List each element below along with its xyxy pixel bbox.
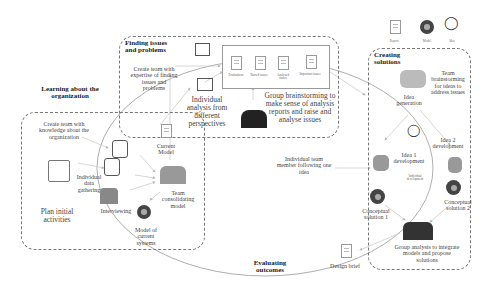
learning-model-current: Model of current systems — [130, 227, 162, 246]
legend-model: Model — [417, 40, 437, 43]
lightbulb-icon: ◯ — [444, 16, 459, 30]
planning-meeting-icon — [48, 160, 70, 182]
important-issues-doc-icon — [306, 55, 317, 69]
reading-person-icon-2 — [104, 158, 120, 176]
idea2-team-icon — [448, 157, 462, 173]
creating-concept2: Conceptual solution 2 — [440, 199, 476, 212]
learning-plan: Plan initial activities — [36, 208, 78, 224]
raised-issues-doc-icon — [255, 56, 266, 70]
evaluating-title: Evaluating outcomes — [245, 260, 295, 275]
creating-group-analysis: Group analysis to integrate models and p… — [394, 244, 460, 263]
creating-idea1: Idea 1 development — [389, 152, 429, 165]
creating-individual-dev: Individual development — [402, 175, 428, 182]
learning-current-model: Current Model — [152, 143, 180, 156]
current-model-doc-icon — [161, 124, 172, 138]
finding-create-team: Create team with expertise of finding is… — [130, 66, 178, 91]
learning-team-consolidating: Team consolidating model — [158, 190, 198, 209]
team-consolidating-icon — [160, 166, 186, 184]
presentation-icon — [195, 43, 210, 56]
concept2-disc-icon — [446, 180, 461, 195]
model-icon — [420, 20, 434, 34]
learning-interviewing: Interviewing — [96, 208, 136, 214]
finding-doc-important: Important issues — [299, 73, 321, 76]
learning-title: Learning about the organization — [40, 86, 100, 101]
creating-idea-generation: Idea generation — [392, 94, 426, 107]
legend-idea: Idea — [444, 40, 460, 43]
idea1-lightbulb-icon: ◯ — [407, 124, 420, 137]
analyzed-issues-doc-icon — [278, 56, 289, 70]
analysis-board-icon — [197, 78, 213, 91]
concept1-disc-icon — [370, 189, 385, 204]
learning-create-team: Create team with knowledge about the org… — [36, 121, 92, 140]
model-current-disc-icon — [137, 205, 151, 219]
finding-doc-analyzed: Analyzed issues — [273, 74, 293, 81]
creating-concept1: Conceptual solution 1 — [356, 208, 396, 221]
evaluations-doc-icon — [231, 56, 242, 70]
finding-group-brainstorm: Group brainstorming to make sense of ana… — [262, 92, 338, 124]
interview-people-icon — [100, 188, 118, 204]
group-analysis-icon — [403, 222, 433, 240]
finding-title: Finding issues and problems — [125, 40, 179, 55]
report-icon — [390, 20, 401, 34]
idea1-team-icon — [373, 155, 389, 171]
creating-team-brainstorm: Team brainstorming for ideas to address … — [428, 70, 468, 95]
reading-person-icon — [112, 140, 128, 158]
creating-individual-team: Individual team member following one ide… — [276, 156, 332, 175]
creating-idea2: Idea 2 development — [428, 137, 468, 150]
finding-individual-analysis: Individual analysis from different persp… — [183, 96, 231, 128]
design-brief-doc-icon — [341, 244, 352, 258]
evaluating-design-brief: Design brief — [325, 263, 365, 269]
legend-report: Report — [384, 40, 404, 43]
finding-doc-evaluations: Evaluations — [224, 74, 248, 77]
creating-title: Creating solutions — [374, 52, 408, 67]
finding-doc-raised: Raised issues — [250, 74, 268, 77]
brainstorm-team-icon — [400, 70, 426, 88]
